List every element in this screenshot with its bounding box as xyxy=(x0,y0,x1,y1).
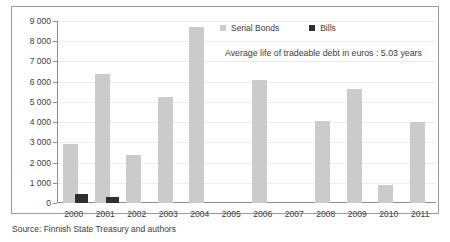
bar-category: 2000 xyxy=(58,21,90,203)
y-tick-label: 6 000 xyxy=(30,77,51,86)
y-tick-label: 5 000 xyxy=(30,98,51,107)
x-tick-label: 2003 xyxy=(159,210,178,219)
y-tick-label: 2 000 xyxy=(30,158,51,167)
x-tick-label: 2009 xyxy=(348,210,367,219)
y-tick-mark xyxy=(53,142,57,143)
y-tick-label: 1 000 xyxy=(30,179,51,188)
y-tick-mark xyxy=(53,41,57,42)
bar-serial-bonds xyxy=(347,89,362,203)
bar-serial-bonds xyxy=(189,27,204,203)
y-tick-mark xyxy=(53,102,57,103)
y-tick-label: 7 000 xyxy=(30,57,51,66)
bar-serial-bonds xyxy=(252,80,267,203)
y-tick-mark xyxy=(53,61,57,62)
x-tick-label: 2010 xyxy=(379,210,398,219)
x-tick-label: 2011 xyxy=(411,210,429,219)
y-tick-label: 9 000 xyxy=(30,17,51,26)
y-tick-label: 0 xyxy=(46,199,51,208)
plot-frame: 9 0008 0007 0006 0005 0004 0003 0002 000… xyxy=(11,6,439,214)
bar-category: 2002 xyxy=(121,21,153,203)
legend-item: Bills xyxy=(309,23,336,33)
bar-serial-bonds xyxy=(378,185,393,203)
x-tick-label: 2005 xyxy=(222,210,241,219)
y-tick-mark xyxy=(53,183,57,184)
legend-item: Serial Bonds xyxy=(220,23,279,33)
chart-legend: Serial BondsBills xyxy=(220,23,336,33)
bar-serial-bonds xyxy=(158,97,173,203)
bar-serial-bonds xyxy=(410,122,425,203)
legend-swatch xyxy=(309,25,315,31)
y-tick-mark xyxy=(53,21,57,22)
y-tick-label: 3 000 xyxy=(30,138,51,147)
y-tick-mark xyxy=(53,163,57,164)
legend-swatch xyxy=(220,25,226,31)
x-tick-label: 2002 xyxy=(127,210,146,219)
bar-serial-bonds xyxy=(126,155,141,203)
x-tick-label: 2006 xyxy=(253,210,272,219)
legend-label: Bills xyxy=(320,23,336,33)
x-tick-label: 2004 xyxy=(190,210,209,219)
bar-bills xyxy=(75,194,88,203)
bar-serial-bonds xyxy=(315,121,330,203)
bar-category: 2004 xyxy=(184,21,216,203)
y-tick-label: 4 000 xyxy=(30,118,51,127)
y-tick-mark xyxy=(53,82,57,83)
x-tick-label: 2001 xyxy=(96,210,115,219)
bar-serial-bonds xyxy=(95,74,110,203)
chart-figure: 9 0008 0007 0006 0005 0004 0003 0002 000… xyxy=(0,0,450,242)
x-tick-label: 2007 xyxy=(285,210,304,219)
y-tick-label: 8 000 xyxy=(30,37,51,46)
bar-category: 2003 xyxy=(153,21,185,203)
x-tick-label: 2000 xyxy=(64,210,83,219)
legend-label: Serial Bonds xyxy=(231,23,279,33)
x-tick-label: 2008 xyxy=(316,210,335,219)
bar-bills xyxy=(106,197,119,203)
y-tick-mark xyxy=(53,203,57,204)
source-note: Source: Finnish State Treasury and autho… xyxy=(12,224,176,234)
bar-category: 2001 xyxy=(90,21,122,203)
y-tick-mark xyxy=(53,122,57,123)
chart-annotation: Average life of tradeable debt in euros … xyxy=(225,48,422,58)
